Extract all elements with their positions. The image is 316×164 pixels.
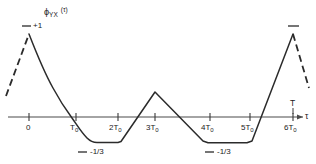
plot-canvas bbox=[0, 0, 316, 164]
tick-label-4t0: 4T0 bbox=[201, 124, 214, 133]
tick-text: 3T bbox=[146, 123, 155, 132]
tick-sub: 0 bbox=[210, 127, 213, 133]
amplitude-label-minus-third-left: -1/3 bbox=[90, 148, 104, 156]
correlation-curve-dashed-left bbox=[6, 34, 29, 96]
tick-label-6t0: 6T0 bbox=[284, 124, 297, 133]
tick-label-t0: T0 bbox=[70, 124, 78, 133]
tick-sub: 0 bbox=[250, 127, 253, 133]
amplitude-label-plus-one: +1 bbox=[33, 22, 42, 30]
tick-label-3t0: 3T0 bbox=[146, 124, 159, 133]
tick-text: 5T bbox=[241, 123, 250, 132]
tick-sub: 0 bbox=[293, 127, 296, 133]
period-marker-label: T bbox=[290, 99, 295, 108]
tick-sub: 0 bbox=[75, 127, 78, 133]
tick-label-5t0: 5T0 bbox=[241, 124, 254, 133]
curve-name-label: ϕYX(τ) bbox=[44, 7, 68, 19]
curve-argument: (τ) bbox=[61, 6, 68, 13]
tick-sub: 0 bbox=[118, 127, 121, 133]
tick-text: 2T bbox=[109, 123, 118, 132]
correlation-function-figure: ϕYX(τ) +1 -1/3 -1/3 0 T0 2T0 3T0 4T0 5T0… bbox=[0, 0, 316, 164]
x-axis-symbol-label: τ bbox=[305, 112, 308, 121]
x-axis-arrow bbox=[297, 115, 303, 120]
tick-text: 4T bbox=[201, 123, 210, 132]
correlation-curve-dashed-right bbox=[293, 34, 309, 88]
curve-subscript: YX bbox=[49, 11, 58, 18]
tick-text: 6T bbox=[284, 123, 293, 132]
tick-sub: 0 bbox=[155, 127, 158, 133]
tick-text: 0 bbox=[26, 123, 30, 132]
tick-label-0: 0 bbox=[26, 124, 30, 133]
tick-label-2t0: 2T0 bbox=[109, 124, 122, 133]
amplitude-label-minus-third-right: -1/3 bbox=[217, 148, 231, 156]
